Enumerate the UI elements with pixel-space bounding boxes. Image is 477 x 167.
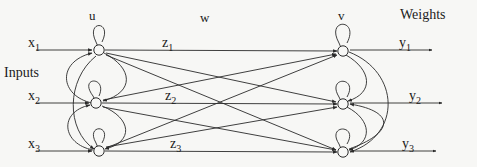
- output-label-y3: y3: [402, 137, 414, 154]
- input-label-x3: x3: [28, 137, 40, 154]
- input-label-x2: x2: [28, 89, 40, 106]
- output-label-y2-base: y: [409, 88, 416, 103]
- output-label-y1-base: y: [399, 35, 406, 50]
- node-v3: [338, 147, 348, 157]
- lateral-arc-u3-u2: [68, 105, 93, 150]
- output-label-y2-sub: 2: [416, 95, 421, 106]
- signal-line-z1: [105, 50, 337, 51]
- input-label-x1: x1: [28, 36, 40, 53]
- node-v2: [338, 99, 348, 109]
- signal-line-z3: [105, 151, 337, 152]
- signal-label-z3: z3: [170, 137, 181, 154]
- input-label-x1-base: x: [28, 35, 35, 50]
- input-label-x3-base: x: [28, 136, 35, 151]
- layer-label-w: w: [200, 11, 209, 24]
- lateral-arc-u2-u3: [102, 106, 126, 149]
- signal-label-z1-sub: 1: [168, 42, 173, 53]
- lateral-arc-v3-v2: [349, 104, 384, 149]
- signal-line-z2: [102, 103, 337, 104]
- lateral-arc-v1-v2: [346, 55, 367, 101]
- cross-link-u1-v2: [106, 53, 336, 102]
- lateral-arc-v1-v3: [349, 52, 388, 152]
- output-label-y2: y2: [409, 89, 421, 106]
- weights-label: Weights: [400, 8, 446, 22]
- signal-label-z3-sub: 3: [176, 143, 181, 154]
- input-label-x2-base: x: [28, 88, 35, 103]
- node-u1: [94, 45, 104, 55]
- signal-label-z2: z2: [165, 89, 176, 106]
- layer-label-u: u: [89, 9, 96, 22]
- output-label-y3-base: y: [402, 136, 409, 151]
- rnn-diagram-figure: u w v Weights Inputs x1 x2 x3 z1 z2 z3 y…: [0, 0, 477, 167]
- node-u2: [91, 98, 101, 108]
- node-u3: [94, 146, 104, 156]
- layer-label-v: v: [338, 9, 345, 22]
- inputs-label: Inputs: [4, 66, 39, 80]
- input-label-x2-sub: 2: [35, 95, 40, 106]
- cross-link-u2-v1: [103, 54, 336, 100]
- input-label-x3-sub: 3: [35, 143, 40, 154]
- signal-label-z2-sub: 2: [171, 95, 176, 106]
- output-label-y1-sub: 1: [406, 42, 411, 53]
- cross-link-u3-v2: [106, 107, 337, 147]
- signal-label-z1: z1: [162, 36, 173, 53]
- lateral-arc-u1-u2: [103, 53, 126, 101]
- output-label-y1: y1: [399, 36, 411, 53]
- input-label-x1-sub: 1: [35, 42, 40, 53]
- node-v1: [338, 46, 348, 56]
- output-label-y3-sub: 3: [409, 143, 414, 154]
